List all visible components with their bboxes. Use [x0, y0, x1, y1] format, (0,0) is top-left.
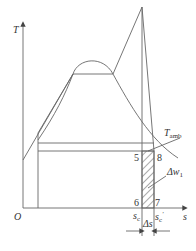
sc-label: sc [133, 211, 140, 223]
point-7-label: 7 [155, 198, 160, 208]
sc-prime-label: sc′ [155, 211, 164, 224]
point-8-label: 8 [157, 153, 162, 163]
t-amb-label: Tamb [164, 128, 182, 140]
delta-s-label: Δs [143, 219, 153, 229]
origin-label: O [14, 212, 21, 222]
s-axis-label: s [183, 212, 187, 222]
point-6-label: 6 [134, 198, 139, 208]
ts-diagram [0, 0, 196, 251]
delta-w-area [142, 151, 154, 208]
point-5-label: 5 [134, 153, 139, 163]
t-axis-label: T [13, 25, 19, 35]
delta-w-label: Δw1 [167, 167, 183, 179]
